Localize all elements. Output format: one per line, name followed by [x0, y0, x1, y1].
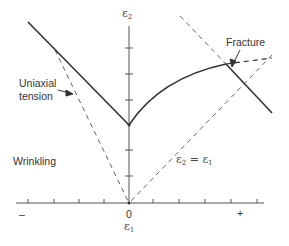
uniaxial-arrowhead-icon — [66, 90, 73, 96]
wrinkling-label: Wrinkling — [13, 155, 56, 167]
origin-point — [128, 202, 131, 205]
fracture-line — [226, 64, 272, 113]
curve-minimum-point — [128, 124, 131, 127]
y-axis — [125, 26, 133, 203]
uniaxial-tension-line — [55, 50, 128, 201]
x-negative-label: – — [19, 208, 25, 220]
annotation-arrows — [58, 50, 240, 96]
fracture-label: Fracture — [226, 36, 265, 48]
right-limit-curve — [129, 64, 226, 125]
fracture-arrowhead-icon — [230, 59, 236, 67]
equal-biaxial-line — [131, 55, 272, 201]
x-axis — [16, 199, 264, 203]
origin-label: 0 — [126, 208, 132, 220]
tension-label: tension — [19, 90, 53, 102]
left-limit-line — [28, 22, 129, 125]
x-positive-label: + — [237, 207, 243, 219]
upper-dashed-line — [180, 16, 226, 64]
equal-strain-label: ε2 = ε1 — [176, 154, 213, 169]
forming-limit-diagram: ε2 – 0 + ε1 Uniaxial tension Wrinkling F… — [0, 0, 289, 246]
x-axis-label: ε1 — [124, 221, 134, 236]
uniaxial-label: Uniaxial — [19, 77, 56, 89]
y-axis-label: ε2 — [122, 8, 132, 23]
